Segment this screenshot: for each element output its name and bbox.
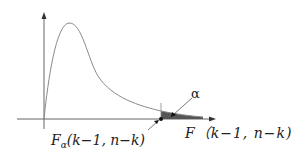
x-axis-arrow-icon — [209, 117, 216, 122]
critical-value-args: (k−1, n−k) — [67, 132, 145, 148]
critical-pointer-arrow-icon — [154, 120, 159, 124]
critical-value-label: Fα(k−1, n−k) — [51, 133, 145, 150]
density-curve — [44, 23, 203, 119]
tail-area-label: α — [191, 87, 200, 100]
critical-value-main: F — [51, 132, 61, 148]
critical-value-point — [159, 117, 163, 121]
x-axis-label: F（k−1, n−k) — [185, 126, 292, 140]
alpha-pointer-line — [173, 98, 192, 115]
critical-pointer-line — [148, 122, 157, 130]
y-axis-arrow-icon — [42, 12, 47, 19]
f-distribution-diagram: α F（k−1, n−k) Fα(k−1, n−k) — [0, 0, 293, 155]
